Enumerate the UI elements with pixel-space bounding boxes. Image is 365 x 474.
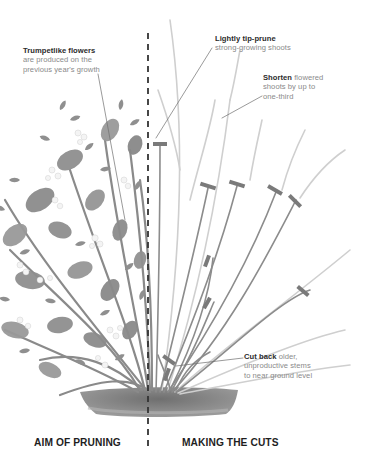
annotation-text: one-third	[263, 92, 293, 101]
annotation-shorten: Shorten flowered shoots by up to one-thi…	[263, 73, 323, 101]
annotation-text: are produced on the	[23, 55, 92, 64]
annotation-text: unproductive stems	[244, 361, 311, 370]
annotation-text: flowered	[292, 73, 323, 82]
annotation-bold: Trumpetlike flowers	[23, 46, 95, 55]
pruning-diagram: Trumpetlike flowers are produced on the …	[0, 0, 365, 474]
soil-mound-icon	[80, 387, 238, 417]
caption-aim-of-pruning: AIM OF PRUNING	[34, 437, 121, 448]
annotation-text: older,	[276, 352, 297, 361]
annotation-cut-back: Cut back older, unproductive stems to ne…	[244, 352, 312, 380]
annotation-tip-prune: Lightly tip-prune strong-growing shoots	[215, 34, 291, 53]
annotation-bold: Lightly tip-prune	[215, 34, 276, 43]
annotation-text: previous year's growth	[23, 65, 100, 74]
annotation-trumpetlike-flowers: Trumpetlike flowers are produced on the …	[23, 46, 100, 74]
annotation-bold: Shorten	[263, 73, 292, 82]
annotation-text: strong-growing shoots	[215, 43, 291, 52]
flowering-bush-icon	[0, 99, 152, 395]
caption-making-the-cuts: MAKING THE CUTS	[182, 437, 279, 448]
annotation-bold: Cut back	[244, 352, 276, 361]
annotation-text: shoots by up to	[263, 82, 315, 91]
annotation-text: to near ground level	[244, 371, 312, 380]
